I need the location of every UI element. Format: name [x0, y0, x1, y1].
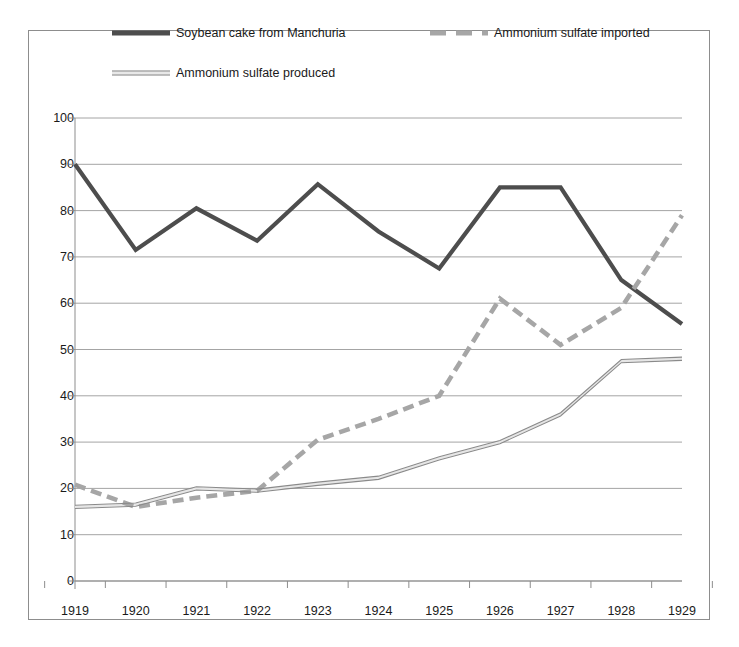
legend-entry-ammonium-produced: Ammonium sulfate produced [112, 66, 335, 80]
chart-plot-frame [28, 30, 710, 620]
legend-label-ammonium-imported: Ammonium sulfate imported [494, 27, 650, 40]
x-axis-tick-label: 1925 [409, 604, 469, 618]
y-axis-tick-label: 80 [34, 204, 74, 218]
x-axis-tick-label: 1924 [349, 604, 409, 618]
x-axis-tick-label: 1922 [227, 604, 287, 618]
y-axis-tick-label: 30 [34, 435, 74, 449]
x-axis-tick-label: 1921 [166, 604, 226, 618]
thin-double-line-swatch-icon [112, 66, 170, 80]
y-axis-tick-label: 60 [34, 296, 74, 310]
x-axis-tick-labels: 1919192019211922192319241925192619271928… [0, 590, 739, 630]
chart-legend: Soybean cake from Manchuria Ammonium sul… [0, 10, 739, 80]
legend-label-ammonium-produced: Ammonium sulfate produced [176, 67, 335, 80]
y-axis-tick-label: 10 [34, 528, 74, 542]
x-axis-tick-label: 1929 [652, 604, 712, 618]
y-axis-tick-label: 90 [34, 157, 74, 171]
y-axis-tick-label: 70 [34, 250, 74, 264]
legend-label-soybean-cake: Soybean cake from Manchuria [176, 27, 346, 40]
legend-entry-soybean-cake: Soybean cake from Manchuria [112, 26, 346, 40]
solid-thick-line-swatch-icon [112, 26, 170, 40]
legend-entry-ammonium-imported: Ammonium sulfate imported [430, 26, 650, 40]
x-axis-tick-label: 1919 [45, 604, 105, 618]
x-axis-tick-label: 1928 [591, 604, 651, 618]
x-axis-tick-label: 1923 [288, 604, 348, 618]
dashed-line-swatch-icon [430, 26, 488, 40]
x-axis-tick-label: 1920 [106, 604, 166, 618]
y-axis-tick-label: 50 [34, 343, 74, 357]
x-axis-tick-label: 1926 [470, 604, 530, 618]
y-axis-tick-label: 20 [34, 481, 74, 495]
y-axis-tick-label: 100 [34, 111, 74, 125]
y-axis-tick-label: 40 [34, 389, 74, 403]
x-axis-tick-label: 1927 [531, 604, 591, 618]
y-axis-tick-labels: 0102030405060708090100 [28, 0, 74, 647]
y-axis-tick-label: 0 [34, 574, 74, 588]
